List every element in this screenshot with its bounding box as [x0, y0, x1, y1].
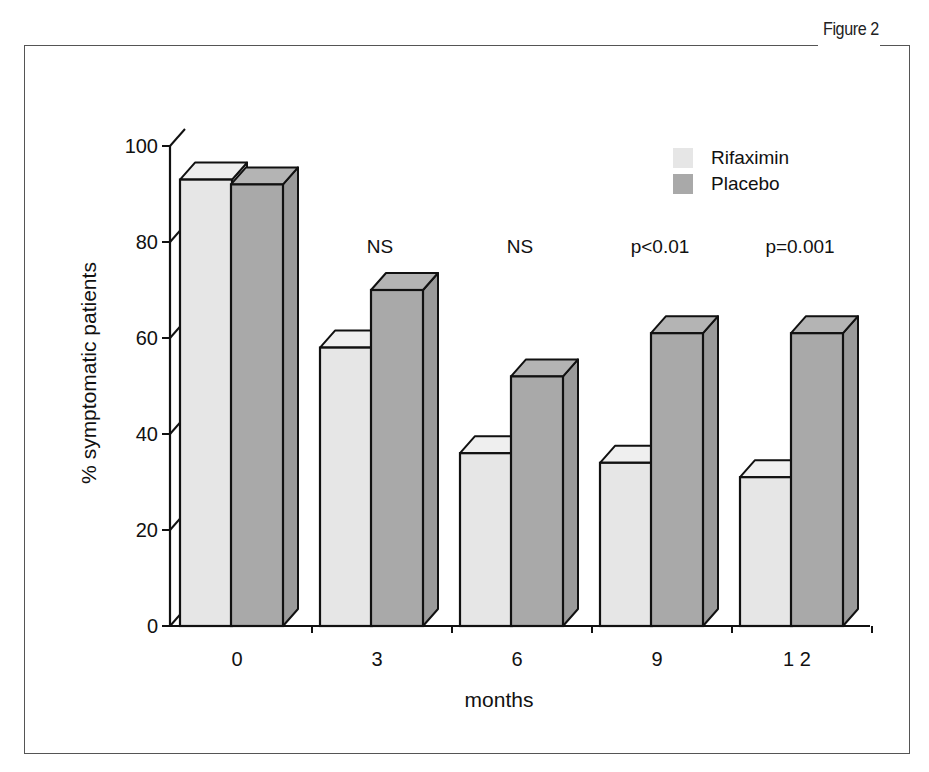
x-tick-label: 1 2 [783, 648, 811, 670]
bar-placebo-3 [371, 273, 438, 626]
legend-label-rifaximin: Rifaximin [711, 147, 789, 168]
bar-chart: 02040608010003NS6NS9p<0.011 2p=0.001mont… [0, 0, 929, 772]
y-tick-label: 40 [136, 423, 158, 445]
chart-legend: RifaximinPlacebo [673, 147, 789, 194]
y-tick-label: 0 [147, 615, 158, 637]
legend-label-placebo: Placebo [711, 173, 780, 194]
chart-bars [180, 163, 858, 626]
y-tick-depth [170, 129, 185, 146]
bar-placebo-0 [231, 167, 298, 626]
y-axis-title: % symptomatic patients [77, 262, 100, 484]
bar-placebo-6 [511, 359, 578, 626]
y-tick-label: 20 [136, 519, 158, 541]
bar-placebo-12 [791, 316, 858, 626]
x-tick-label: 6 [511, 648, 522, 670]
significance-label: p=0.001 [765, 236, 834, 257]
significance-label: NS [367, 236, 393, 257]
y-tick-label: 60 [136, 327, 158, 349]
x-tick-label: 3 [371, 648, 382, 670]
legend-swatch-rifaximin [673, 148, 693, 168]
bar-placebo-9 [651, 316, 718, 626]
x-tick-label: 9 [651, 648, 662, 670]
y-tick-label: 100 [125, 135, 158, 157]
x-axis-title: months [465, 688, 534, 711]
significance-label: NS [507, 236, 533, 257]
y-tick-label: 80 [136, 231, 158, 253]
legend-swatch-placebo [673, 174, 693, 194]
x-tick-label: 0 [231, 648, 242, 670]
significance-label: p<0.01 [631, 236, 690, 257]
